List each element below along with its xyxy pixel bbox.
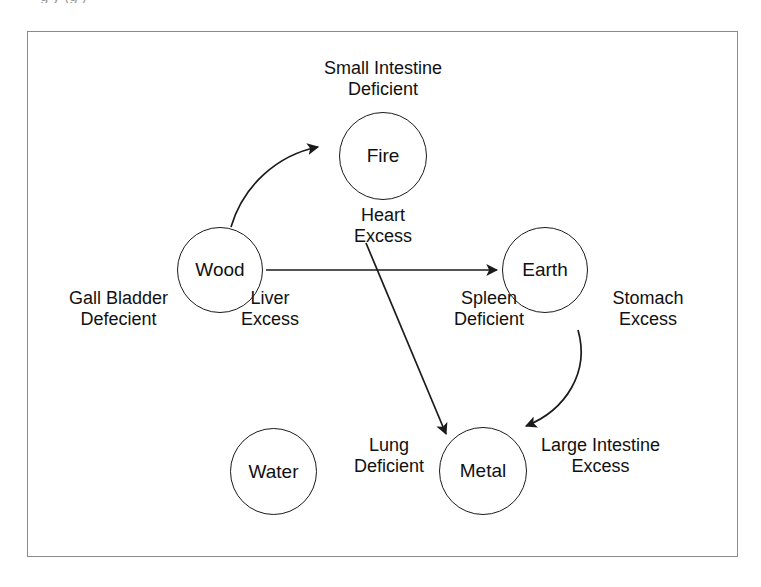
annotation-gall-bladder: Gall Bladder Defecient <box>69 288 168 330</box>
annotation-organ-liver: Liver <box>241 288 299 309</box>
annotation-spleen: Spleen Deficient <box>454 288 524 330</box>
annotation-lung: Lung Deficient <box>354 435 424 477</box>
annotation-organ-stomach: Stomach <box>612 288 683 309</box>
annotation-liver: Liver Excess <box>241 288 299 330</box>
element-label-fire: Fire <box>367 145 400 167</box>
element-label-wood: Wood <box>195 259 244 281</box>
annotation-state-lung: Deficient <box>354 456 424 477</box>
annotation-organ-gall-bladder: Gall Bladder <box>69 288 168 309</box>
annotation-state-small-intestine: Deficient <box>324 79 442 100</box>
cut-off-caption-fragment: g y (g ) <box>0 0 761 3</box>
annotation-state-large-intestine: Excess <box>541 456 660 477</box>
annotation-large-intestine: Large Intestine Excess <box>541 435 660 477</box>
annotation-stomach: Stomach Excess <box>612 288 683 330</box>
element-label-metal: Metal <box>460 460 506 482</box>
annotation-heart: Heart Excess <box>354 205 412 247</box>
element-label-water: Water <box>249 461 299 483</box>
annotation-state-spleen: Deficient <box>454 309 524 330</box>
element-node-metal[interactable]: Metal <box>439 427 527 515</box>
annotation-organ-lung: Lung <box>354 435 424 456</box>
annotation-organ-large-intestine: Large Intestine <box>541 435 660 456</box>
element-label-earth: Earth <box>522 259 567 281</box>
annotation-state-gall-bladder: Defecient <box>69 309 168 330</box>
annotation-small-intestine: Small Intestine Deficient <box>324 58 442 100</box>
annotation-organ-heart: Heart <box>354 205 412 226</box>
element-node-fire[interactable]: Fire <box>339 112 427 200</box>
element-node-water[interactable]: Water <box>230 428 317 515</box>
annotation-organ-small-intestine: Small Intestine <box>324 58 442 79</box>
annotation-state-liver: Excess <box>241 309 299 330</box>
annotation-state-heart: Excess <box>354 226 412 247</box>
annotation-organ-spleen: Spleen <box>454 288 524 309</box>
annotation-state-stomach: Excess <box>612 309 683 330</box>
